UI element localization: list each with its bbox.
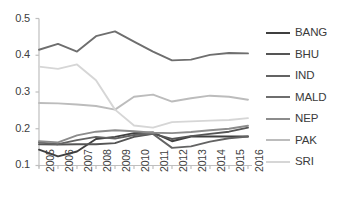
x-axis-tick-label: 2016 [253,149,265,172]
legend-item-bang[interactable]: BANG [266,22,348,44]
legend-label: MALD [295,92,327,104]
x-axis-tick-label: 2006 [63,149,75,172]
x-axis-tick-label: 2015 [234,149,246,172]
x-axis-tick-label: 2014 [215,149,227,172]
x-axis-tick-label: 2009 [120,149,132,172]
series-line-pak [39,95,248,110]
x-axis-tick-label: 2010 [139,149,151,172]
legend-label: BHU [295,49,319,61]
legend-swatch-icon [266,32,290,34]
legend-label: SRI [295,156,314,168]
legend-label: IND [295,70,315,82]
x-axis-tick-label: 2013 [196,149,208,172]
x-axis-tick-label: 2007 [82,149,94,172]
legend-swatch-icon [266,75,290,77]
legend-label: PAK [295,135,317,147]
legend-item-sri[interactable]: SRI [266,151,348,173]
legend-swatch-icon [266,118,290,120]
x-axis-tick-label: 2011 [158,150,170,172]
legend-item-mald[interactable]: MALD [266,87,348,109]
legend-item-bhu[interactable]: BHU [266,44,348,66]
x-axis-tick-label: 2008 [101,149,113,172]
series-line-mald [39,31,248,60]
legend-item-pak[interactable]: PAK [266,130,348,152]
legend-swatch-icon [266,96,290,98]
line-chart: 0.5 0.4 0.3 0.2 0.1 20052006200720082009… [0,0,348,214]
x-axis-tick-label: 2012 [177,149,189,172]
legend-swatch-icon [266,53,290,55]
legend-item-ind[interactable]: IND [266,65,348,87]
x-axis-tick-label: 2005 [44,149,56,172]
legend-item-nep[interactable]: NEP [266,108,348,130]
chart-legend: BANGBHUINDMALDNEPPAKSRI [266,22,348,173]
legend-label: NEP [295,113,318,125]
legend-swatch-icon [266,161,290,163]
legend-swatch-icon [266,139,290,141]
legend-label: BANG [295,27,327,39]
